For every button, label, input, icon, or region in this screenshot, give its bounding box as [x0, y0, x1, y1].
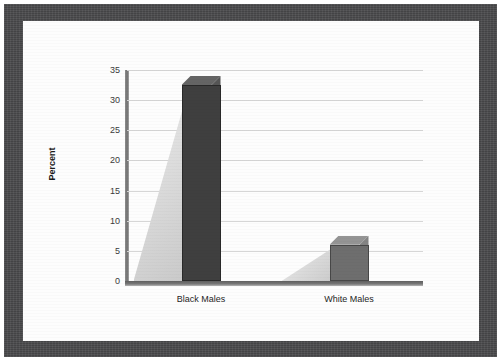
- bar-front-face[interactable]: [182, 85, 221, 281]
- y-axis-tick-label: 20: [110, 155, 120, 165]
- bar-front-face[interactable]: [330, 245, 369, 281]
- y-axis-tick-label: 30: [110, 95, 120, 105]
- y-axis-tick-label: 35: [110, 65, 120, 75]
- bar-group[interactable]: Black Males: [127, 70, 275, 281]
- y-axis-tick-label: 15: [110, 186, 120, 196]
- plot-area: 05101520253035 Black MalesWhite Males: [127, 70, 423, 281]
- x-axis-category-label: Black Males: [141, 294, 261, 304]
- y-axis-tick-label: 5: [115, 246, 120, 256]
- bar-chart: Percent 05101520253035 Black MalesWhite …: [23, 21, 479, 341]
- gridline: [127, 281, 423, 282]
- y-axis-tick-label: 0: [115, 276, 120, 286]
- chart-canvas: Percent 05101520253035 Black MalesWhite …: [23, 21, 479, 341]
- x-axis-category-label: White Males: [289, 294, 409, 304]
- y-axis-title: Percent: [47, 129, 57, 199]
- bar-group[interactable]: White Males: [275, 70, 423, 281]
- y-axis-tick-label: 10: [110, 216, 120, 226]
- y-axis-tick-label: 25: [110, 125, 120, 135]
- scanned-page: Percent 05101520253035 Black MalesWhite …: [0, 0, 501, 361]
